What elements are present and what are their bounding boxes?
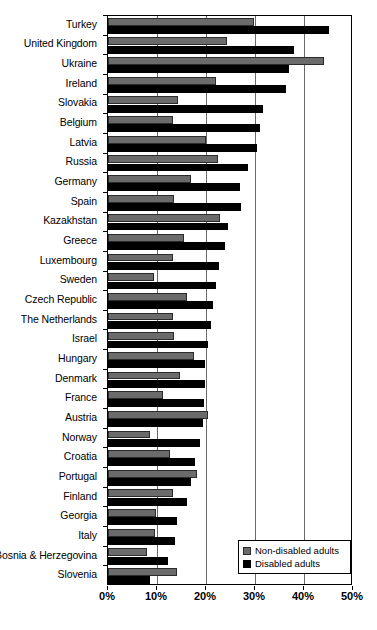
category-tick xyxy=(103,172,107,173)
category-tick xyxy=(103,388,107,389)
bar-disabled xyxy=(108,478,191,486)
value-tick-mark xyxy=(352,586,353,590)
category-tick xyxy=(103,113,107,114)
category-label: Greece xyxy=(63,235,97,246)
bar-nondisabled xyxy=(108,77,216,85)
category-label: Norway xyxy=(62,432,97,443)
category-tick xyxy=(103,94,107,95)
legend-item: Disabled adults xyxy=(243,557,346,570)
bar-disabled xyxy=(108,282,216,290)
value-tick-mark xyxy=(303,586,304,590)
value-tick-label: 40% xyxy=(292,590,314,602)
bar-nondisabled xyxy=(108,548,147,556)
bar-disabled xyxy=(108,321,211,329)
bar-disabled xyxy=(108,341,208,349)
bar-nondisabled xyxy=(108,431,150,439)
bar-series-container xyxy=(108,16,351,584)
category-label: Slovenia xyxy=(58,569,97,580)
bar-disabled xyxy=(108,144,257,152)
bar-nondisabled xyxy=(108,37,227,45)
bar-nondisabled xyxy=(108,96,178,104)
bar-disabled xyxy=(108,439,200,447)
legend-label: Non-disabled adults xyxy=(255,545,339,556)
category-tick xyxy=(103,428,107,429)
bar-nondisabled xyxy=(108,18,254,26)
bar-nondisabled xyxy=(108,332,174,340)
bar-nondisabled xyxy=(108,136,206,144)
bar-nondisabled xyxy=(108,293,187,301)
category-label: The Netherlands xyxy=(21,314,97,325)
bar-nondisabled xyxy=(108,470,197,478)
value-axis-labels: 0%10%20%30%40%50% xyxy=(0,590,377,610)
legend-item: Non-disabled adults xyxy=(243,544,346,557)
bar-disabled xyxy=(108,557,168,565)
bar-nondisabled xyxy=(108,509,156,517)
category-tick xyxy=(103,408,107,409)
bar-disabled xyxy=(108,203,241,211)
bar-nondisabled xyxy=(108,175,191,183)
bar-disabled xyxy=(108,183,240,191)
bar-nondisabled xyxy=(108,155,218,163)
bar-nondisabled xyxy=(108,195,174,203)
value-tick-mark xyxy=(156,586,157,590)
category-tick xyxy=(103,133,107,134)
bar-nondisabled xyxy=(108,254,173,262)
bar-disabled xyxy=(108,242,225,250)
bar-disabled xyxy=(108,124,260,132)
bar-disabled xyxy=(108,498,187,506)
category-label: Russia xyxy=(66,156,98,167)
category-label: Hungary xyxy=(58,353,97,364)
legend-label: Disabled adults xyxy=(255,558,320,569)
category-label: United Kingdom xyxy=(24,38,97,49)
category-tick xyxy=(103,565,107,566)
category-tick xyxy=(103,251,107,252)
category-tick xyxy=(103,526,107,527)
chart-legend: Non-disabled adultsDisabled adults xyxy=(238,540,351,574)
bar-disabled xyxy=(108,262,219,270)
category-tick xyxy=(103,212,107,213)
category-tick xyxy=(103,487,107,488)
value-tick-label: 20% xyxy=(194,590,216,602)
value-tick-label: 0% xyxy=(99,590,115,602)
category-tick xyxy=(103,310,107,311)
category-label: Belgium xyxy=(60,117,97,128)
bar-disabled xyxy=(108,360,205,368)
value-tick-label: 30% xyxy=(243,590,265,602)
bar-nondisabled xyxy=(108,352,194,360)
bar-nondisabled xyxy=(108,116,173,124)
category-label: Italy xyxy=(78,530,97,541)
category-label: Ukraine xyxy=(62,58,97,69)
bar-nondisabled xyxy=(108,273,154,281)
category-tick xyxy=(103,329,107,330)
category-tick xyxy=(103,369,107,370)
bar-nondisabled xyxy=(108,234,184,242)
category-label: Spain xyxy=(71,196,97,207)
bar-nondisabled xyxy=(108,313,173,321)
category-label: Sweden xyxy=(60,274,97,285)
legend-swatch-nondisabled xyxy=(243,547,251,555)
category-tick xyxy=(103,506,107,507)
category-tick xyxy=(103,35,107,36)
bar-nondisabled xyxy=(108,411,208,419)
bar-nondisabled xyxy=(108,450,170,458)
value-tick-mark xyxy=(107,586,108,590)
category-tick xyxy=(103,192,107,193)
category-label: Kazakhstan xyxy=(43,215,97,226)
category-tick xyxy=(103,467,107,468)
bar-disabled xyxy=(108,380,205,388)
category-tick xyxy=(103,15,107,16)
category-label: Portugal xyxy=(59,471,97,482)
category-label: Israel xyxy=(72,333,97,344)
value-tick-label: 10% xyxy=(145,590,167,602)
bar-disabled xyxy=(108,223,228,231)
bar-disabled xyxy=(108,301,213,309)
category-label: Ireland xyxy=(66,78,97,89)
category-label: Slovakia xyxy=(58,97,97,108)
category-tick xyxy=(103,349,107,350)
bar-disabled xyxy=(108,85,286,93)
bar-nondisabled xyxy=(108,214,220,222)
category-axis-labels: TurkeyUnited KingdomUkraineIrelandSlovak… xyxy=(0,15,103,585)
category-tick xyxy=(103,290,107,291)
bar-chart: TurkeyUnited KingdomUkraineIrelandSlovak… xyxy=(0,0,377,630)
category-tick xyxy=(103,546,107,547)
